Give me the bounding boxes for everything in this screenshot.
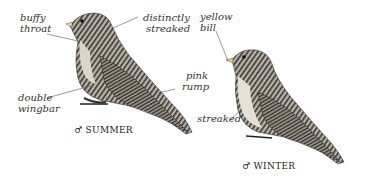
label-line: streaked [197, 113, 241, 124]
label-line: bill [200, 22, 233, 33]
label-buffy-throat: buffy throat [20, 12, 51, 34]
pointer-yellow-bill [216, 31, 228, 61]
label-line: double [18, 92, 60, 103]
label-pink-rump: pink rump [182, 70, 209, 92]
caption-winter: ♂ WINTER [242, 161, 295, 171]
pointer-buffy-throat [47, 34, 78, 41]
label-line: buffy [20, 12, 51, 23]
label-line: pink [182, 70, 209, 81]
caption-summer: ♂ SUMMER [74, 125, 133, 135]
male-symbol-icon: ♂ [242, 161, 250, 171]
label-line: throat [20, 23, 51, 34]
label-line: wingbar [18, 103, 60, 114]
label-line: rump [182, 81, 209, 92]
label-double-wingbar: double wingbar [18, 92, 60, 114]
male-symbol-icon: ♂ [74, 125, 82, 135]
label-distinctly-streaked: distinctly streaked [143, 12, 190, 34]
label-streaked: streaked [197, 113, 241, 124]
label-yellow-bill: yellow bill [200, 11, 233, 33]
label-line: distinctly [143, 12, 190, 23]
winter-bird-illustration [226, 50, 344, 164]
label-line: streaked [143, 23, 190, 34]
label-line: yellow [200, 11, 233, 22]
caption-text: SUMMER [86, 125, 133, 135]
caption-text: WINTER [254, 161, 296, 171]
pointer-distinctly-streaked [113, 17, 138, 28]
